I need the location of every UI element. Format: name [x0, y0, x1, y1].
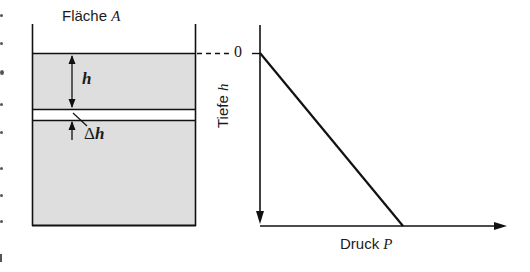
thin-layer-slice	[33, 110, 195, 120]
liquid-lower-region	[33, 121, 195, 225]
edge-artifact-dot	[0, 14, 3, 17]
x-axis-arrow-right-icon	[494, 222, 507, 230]
area-label-text: Fläche	[62, 7, 111, 24]
layer-h-symbol: h	[95, 124, 104, 143]
pressure-depth-graph	[252, 25, 507, 230]
y-axis-title-text: Tiefe	[214, 91, 231, 128]
y-axis-arrow-down-icon	[256, 211, 264, 224]
x-axis-title-symbol: P	[383, 236, 392, 252]
pressure-depth-line	[260, 53, 403, 226]
x-axis-title: Druck P	[340, 236, 393, 252]
depth-symbol-label: h	[82, 70, 91, 87]
hydrostatic-pressure-diagram: Fläche A h Δh 0 Tiefe h Druck P	[0, 0, 530, 272]
edge-artifact-dot	[0, 220, 3, 223]
delta-symbol: Δ	[84, 124, 95, 143]
edge-artifact-mark	[0, 254, 2, 262]
edge-artifact-dot	[0, 70, 4, 75]
edge-artifact-dot	[0, 103, 3, 106]
layer-thickness-label: Δh	[84, 125, 104, 142]
edge-artifact-dot	[0, 131, 3, 134]
area-symbol: A	[111, 8, 120, 24]
x-axis-title-text: Druck	[340, 235, 383, 252]
y-axis-title: Tiefe h	[215, 84, 231, 128]
area-label: Fläche A	[62, 8, 120, 24]
edge-artifact-dot	[0, 194, 3, 197]
diagram-canvas	[0, 0, 530, 272]
liquid-container	[32, 24, 196, 226]
edge-artifact-dot	[0, 167, 3, 170]
y-axis-title-symbol: h	[215, 84, 231, 92]
y-axis-zero-label: 0	[234, 44, 242, 60]
liquid-upper-region	[33, 54, 195, 109]
edge-artifact-dot	[0, 42, 3, 45]
